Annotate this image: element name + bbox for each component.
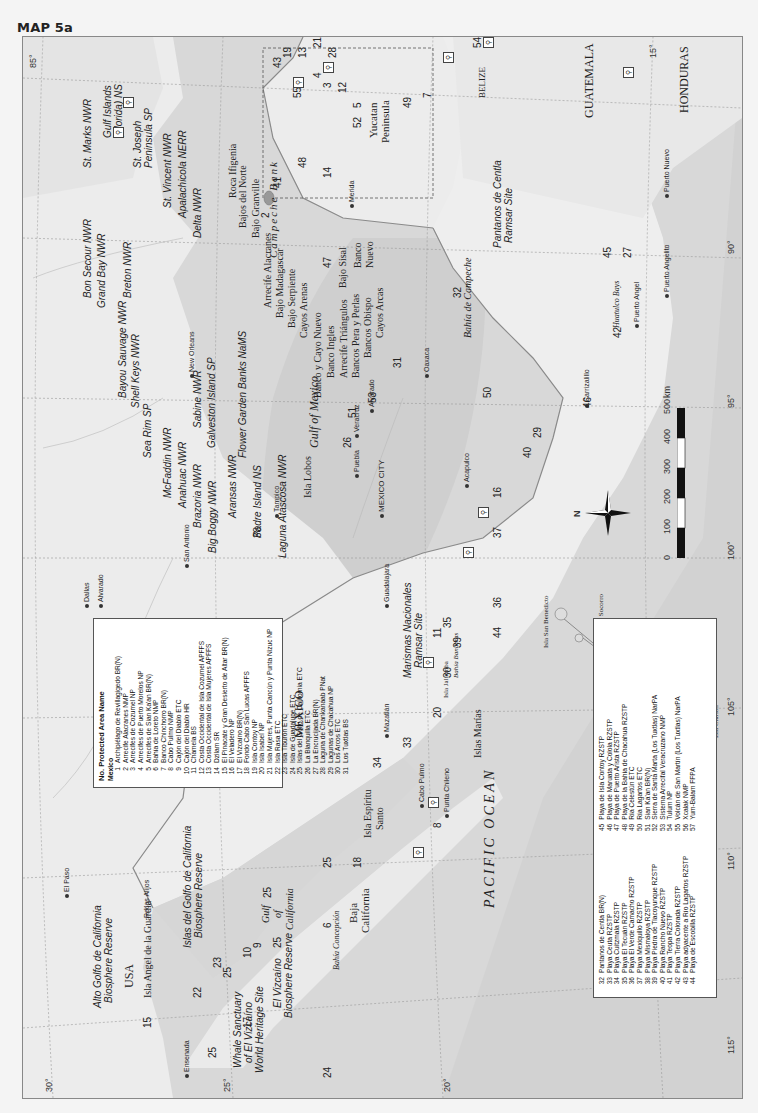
legend-row: 13Costa Occidental de Isla Mujeres APFFS [205,625,213,781]
legend-row-number: 9 [175,767,183,781]
site-number: 28 [328,47,338,58]
legend-row-name: Bahía de Loreto NMP [152,700,160,763]
legend-row-number: 52 [651,824,659,838]
island-espiritu: Santo [375,807,385,830]
legend-row-name: Dzilam SR [213,732,221,763]
compass-rose-icon: N [583,488,633,538]
legend-row-name: Lagunas de Chacahua NP [327,686,335,763]
site-islas-golfo: Biosphere Reserve [194,853,204,938]
reef-cayos-arcas: Cayos Arcas [375,288,385,338]
scale-label: 100 [663,519,672,534]
scale-label: 500 [663,399,672,414]
legend-row-name: Fondo Cabo San Lucas APFFS [243,671,251,763]
legend-row-name: Arrecife Alacranes NMP [122,693,130,763]
legend-row-name: Playa Mexiquillo RZSTP [636,902,644,973]
legend-row: 25Islas del Golfo de California ETC [296,625,304,781]
lon-label: 95° [727,394,736,408]
legend-subheader: Mexico [107,625,115,781]
legend-row-number: 11 [190,767,198,781]
site-number: 47 [323,257,333,268]
site-big-boggy: Big Boggy NWR [208,481,218,553]
legend-row: 56Xcalak NMP [682,695,690,838]
turtle-icon: ⚲ [623,67,634,78]
legend-row-name: Tulum NP [666,791,674,820]
yucatan-label: Peninsula [380,100,391,143]
legend-row-number: 46 [606,824,614,838]
site-number: 44 [493,627,503,638]
site-shell-keys: Shell Keys NWR [131,334,141,408]
site-number: 53 [368,392,378,403]
legend-row-number: 26 [304,767,312,781]
site-number: 55 [293,87,303,98]
legend-row-name: Chamela BS [190,726,198,763]
legend-row-number: 45 [598,824,606,838]
legend-row-number: 2 [122,767,130,781]
site-number: 25 [223,967,233,978]
site-number: 30 [443,667,453,678]
legend-row-number: 43 [682,977,690,991]
legend-row-number: 34 [613,977,621,991]
legend-row-name: Arrecifes de Sian Ka'an BR(N) [145,674,153,763]
legend-row: 8Cabo Pulmo NMP [167,625,175,781]
site-number: 21 [313,37,323,48]
site-number: 15 [143,1017,153,1028]
scale-bar: 0 100 200 300 400 500 km [663,388,703,558]
legend-row-number: 48 [621,824,629,838]
site-st-joseph: St. Joseph [133,121,143,168]
legend-row: 32Pantanos de Centla BR(N) [598,856,606,991]
site-st-marks: St. Marks NWR [83,99,93,168]
bahia-campeche-label: Bahía de Campeche [463,257,473,338]
legend-row-number: 39 [651,977,659,991]
gulf-california-label: Gulf [261,905,271,923]
city-mexico-city: MEXICO CITY [378,460,386,518]
reef-arrecife-alacranes: Arrecife Alacranes [263,233,273,308]
site-number: 46 [583,397,593,408]
legend-row-number: 1 [114,767,122,781]
legend-row: 6Bahía de Loreto NMP [152,625,160,781]
legend-protected-areas-2: 32Pantanos de Centla BR(N)33Playa Ceuta … [593,618,717,998]
site-number: 31 [393,357,403,368]
legend-row-name: Pantanos de Centla BR(N) [598,895,606,973]
legend-row-name: Isla Isabel NP [258,722,266,763]
site-number: 41 [273,177,283,188]
site-st-vincent: St. Vincent NWR [163,133,173,208]
site-alto-golfo: Biosphere Reserve [104,918,114,1003]
legend-row: 15El Pinacate y Gran Desierto de Altar B… [221,625,229,781]
turtle-icon: ⚲ [478,507,489,518]
legend-row: 54Tulum NP [666,695,674,838]
legend-row-number: 18 [243,767,251,781]
legend-row-name: Playa Tierra Colorada RZSTP [674,886,682,973]
legend-row-number: 13 [205,767,213,781]
legend-row-name: El Pinacate y Gran Desierto de Altar BR(… [221,637,229,763]
legend-row: 36Playa El Verde Camacho RZSTP [628,856,636,991]
legend-row-name: Sian Ka'an BR(N) [644,768,652,820]
legend-row-name: Playa de Maruata y Colola RZSTP [606,719,614,820]
legend-row-name: Playa adyacente a Río Lagartos RZSTP [682,856,690,973]
city-puerto-angelito: Puerto Angelito [663,245,670,298]
legend-row: 48Playa de la Bahía de Chacahua RZSTP [621,695,629,838]
legend-row-name: Playa El Tecuán RZSTP [621,902,629,973]
city-puerto-nuevo: Puerto Nuevo [663,149,670,198]
legend-row: 33Playa Ceuta RZSTP [606,856,614,991]
legend-row-name: Playa de Puerto Arista RZSTP [613,731,621,820]
site-number: 8 [433,822,443,828]
city-san-antonio: San Antonio [183,524,190,568]
legend-row-number: 28 [319,767,327,781]
site-marismas: Marismas Nacionales [403,582,413,678]
bahia-concepcion-label: Bahía Concepción [333,911,341,970]
legend-row-number: 47 [613,824,621,838]
site-number: 4 [313,72,323,78]
legend-row-name: Cabo Pulmo NMP [167,710,175,763]
site-breton: Breton NWR [123,242,133,298]
scale-label: 300 [663,459,672,474]
lat-label: 15° [649,44,658,58]
legend-row-number: 37 [636,977,644,991]
turtle-icon: ⚲ [443,52,454,63]
legend-row: 52Sierra de Santa Marta (Los Tuxtlas) Na… [651,695,659,838]
site-number: 22 [193,987,203,998]
scale-label: 200 [663,489,672,504]
site-number: 40 [523,447,533,458]
lon-label: 90° [727,240,736,254]
legend-row-name: El Veladero NP [228,718,236,763]
turtle-icon: ⚲ [113,127,124,138]
